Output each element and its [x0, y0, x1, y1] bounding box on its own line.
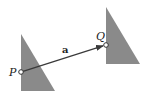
- point-q-marker: [104, 43, 109, 48]
- translated-triangle: [106, 7, 140, 64]
- point-p-marker: [19, 70, 24, 75]
- vector-a-label: a: [62, 44, 69, 55]
- point-p-label: P: [8, 66, 17, 79]
- translation-diagram: P Q a: [0, 0, 149, 97]
- point-q-label: Q: [96, 30, 105, 43]
